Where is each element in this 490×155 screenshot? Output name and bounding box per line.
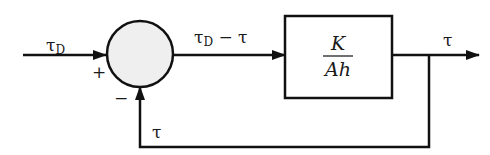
- block-diagram: τD + − τD − τ K Ah τ τ: [0, 0, 490, 155]
- output-label: τ: [443, 30, 452, 50]
- plus-sign: +: [92, 62, 106, 82]
- block-numerator: K: [330, 32, 347, 54]
- feedback-label: τ: [152, 122, 161, 142]
- block-denominator: Ah: [323, 58, 351, 80]
- summing-junction: [107, 21, 173, 87]
- input-label: τD: [46, 35, 65, 57]
- error-label: τD − τ: [194, 27, 248, 49]
- minus-sign: −: [114, 88, 128, 108]
- transfer-function-block: [285, 16, 392, 98]
